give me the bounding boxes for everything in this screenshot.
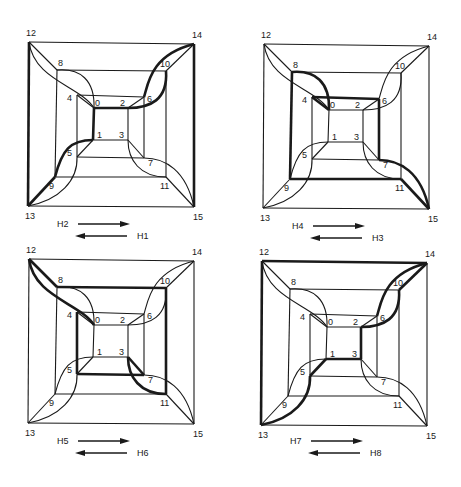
node-label-10: 10 bbox=[160, 276, 170, 286]
node-label-11: 11 bbox=[395, 183, 404, 193]
node-label-12: 12 bbox=[26, 245, 36, 255]
node-label-10: 10 bbox=[395, 61, 405, 71]
node-label-12: 12 bbox=[259, 247, 269, 257]
node-label-9: 9 bbox=[282, 400, 287, 410]
forward-path-label: H5 bbox=[57, 436, 69, 446]
node-label-10: 10 bbox=[393, 278, 403, 288]
edge-4-6 bbox=[312, 97, 379, 99]
arrow-left-icon bbox=[75, 450, 85, 456]
node-label-12: 12 bbox=[26, 28, 36, 38]
node-label-2: 2 bbox=[353, 317, 358, 327]
panel-h1-h2: 0123456789101112131415H2H1 bbox=[0, 0, 230, 243]
node-label-4: 4 bbox=[300, 312, 305, 322]
panel-h5-h6: 0123456789101112131415H5H6 bbox=[0, 217, 230, 460]
node-label-13: 13 bbox=[258, 430, 268, 440]
node-label-14: 14 bbox=[192, 30, 202, 40]
edge-5-1 bbox=[312, 142, 328, 159]
node-label-6: 6 bbox=[147, 311, 152, 321]
node-label-7: 7 bbox=[383, 160, 388, 170]
node-label-1: 1 bbox=[97, 347, 102, 357]
node-label-2: 2 bbox=[355, 100, 360, 110]
edge-1-0 bbox=[328, 110, 329, 142]
edge-14-10 bbox=[401, 46, 429, 73]
edge-14-10 bbox=[166, 261, 194, 288]
edge-4-0 bbox=[310, 314, 327, 327]
node-label-14: 14 bbox=[427, 32, 437, 42]
edge-7-5 bbox=[77, 157, 144, 158]
node-label-5: 5 bbox=[302, 150, 307, 160]
curved-edge-8-0 bbox=[57, 70, 94, 108]
node-label-9: 9 bbox=[49, 398, 54, 408]
node-label-9: 9 bbox=[49, 181, 54, 191]
arrow-right-icon bbox=[353, 438, 363, 444]
node-label-2: 2 bbox=[120, 98, 125, 108]
panel-h3-h4: 0123456789101112131415H4H3 bbox=[235, 2, 461, 245]
node-label-13: 13 bbox=[25, 428, 35, 438]
edge-15-13 bbox=[263, 208, 429, 209]
node-label-0: 0 bbox=[328, 317, 333, 327]
node-label-0: 0 bbox=[330, 100, 335, 110]
graph-drawing: 0123456789101112131415H7H8 bbox=[233, 219, 461, 462]
node-label-12: 12 bbox=[261, 30, 271, 40]
edge-7-5 bbox=[310, 376, 377, 377]
node-label-7: 7 bbox=[148, 158, 153, 168]
node-label-3: 3 bbox=[354, 132, 359, 142]
edge-4-6 bbox=[77, 312, 144, 314]
path-legend: H5H6 bbox=[57, 436, 149, 458]
panel-h7-h8: 0123456789101112131415H7H8 bbox=[233, 219, 461, 462]
node-label-8: 8 bbox=[58, 275, 63, 285]
edge-9-8 bbox=[290, 72, 292, 179]
graph-drawing: 0123456789101112131415H2H1 bbox=[0, 0, 230, 243]
edge-1-0 bbox=[326, 327, 327, 359]
node-label-9: 9 bbox=[284, 183, 289, 193]
node-label-0: 0 bbox=[95, 315, 100, 325]
node-label-4: 4 bbox=[67, 310, 72, 320]
node-label-10: 10 bbox=[160, 59, 170, 69]
node-label-3: 3 bbox=[119, 130, 124, 140]
node-label-15: 15 bbox=[426, 431, 436, 441]
edge-15-13 bbox=[28, 423, 194, 424]
edge-12-14 bbox=[262, 261, 427, 263]
node-label-4: 4 bbox=[67, 93, 72, 103]
graph-drawing: 0123456789101112131415H4H3 bbox=[235, 2, 461, 245]
arrow-right-icon bbox=[120, 438, 130, 444]
edge-9-8 bbox=[55, 70, 57, 177]
edge-13-12 bbox=[28, 259, 29, 423]
node-label-5: 5 bbox=[67, 148, 72, 158]
node-label-8: 8 bbox=[58, 58, 63, 68]
node-label-1: 1 bbox=[97, 130, 102, 140]
edge-15-13 bbox=[261, 425, 427, 426]
curved-edge-8-0 bbox=[290, 289, 327, 327]
edge-15-13 bbox=[28, 206, 194, 207]
edge-5-1 bbox=[310, 359, 326, 376]
edge-13-12 bbox=[263, 44, 264, 208]
node-label-7: 7 bbox=[148, 375, 153, 385]
edge-4-0 bbox=[77, 95, 94, 108]
node-label-7: 7 bbox=[381, 377, 386, 387]
node-label-3: 3 bbox=[119, 347, 124, 357]
node-label-1: 1 bbox=[330, 349, 335, 359]
edge-13-12 bbox=[261, 261, 262, 425]
node-label-8: 8 bbox=[293, 60, 298, 70]
node-label-4: 4 bbox=[302, 95, 307, 105]
edge-7-5 bbox=[312, 159, 379, 160]
edge-9-8 bbox=[288, 289, 290, 396]
graph-drawing: 0123456789101112131415H5H6 bbox=[0, 217, 230, 460]
edge-4-6 bbox=[310, 314, 377, 316]
node-label-8: 8 bbox=[291, 277, 296, 287]
backward-path-label: H6 bbox=[137, 448, 149, 458]
edge-12-14 bbox=[29, 42, 194, 44]
edge-5-1 bbox=[77, 357, 93, 374]
edge-9-8 bbox=[55, 287, 57, 394]
node-label-11: 11 bbox=[160, 398, 169, 408]
node-label-0: 0 bbox=[95, 98, 100, 108]
edge-12-14 bbox=[264, 44, 429, 46]
node-label-5: 5 bbox=[67, 365, 72, 375]
node-label-5: 5 bbox=[300, 367, 305, 377]
edge-7-5 bbox=[77, 374, 144, 375]
node-label-3: 3 bbox=[352, 349, 357, 359]
arrow-left-icon bbox=[308, 450, 318, 456]
node-label-1: 1 bbox=[332, 132, 337, 142]
node-label-15: 15 bbox=[193, 429, 203, 439]
node-label-6: 6 bbox=[380, 313, 385, 323]
